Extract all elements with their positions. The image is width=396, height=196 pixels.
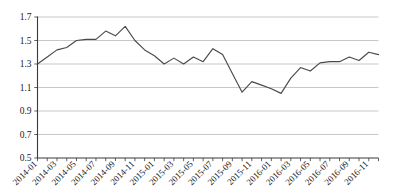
y-axis-tick-label: 1.3: [20, 59, 32, 69]
y-axis-tick-label: 0.9: [20, 106, 32, 116]
y-axis-tick-label: 0.7: [20, 130, 32, 140]
y-axis-tick-labels: 0.50.70.91.11.31.51.7: [20, 12, 38, 163]
chart-canvas: 0.50.70.91.11.31.51.7 2014-012014-032014…: [0, 0, 396, 196]
x-axis-tick-labels: 2014-012014-032014-052014-072014-092014-…: [11, 158, 371, 187]
gridlines-group: [38, 17, 379, 135]
data-line: [38, 26, 379, 93]
y-axis-tick-label: 1.1: [20, 83, 32, 93]
y-axis-tick-label: 1.5: [20, 36, 32, 46]
y-axis-tick-label: 1.7: [20, 12, 32, 22]
line-chart: 0.50.70.91.11.31.51.7 2014-012014-032014…: [0, 0, 396, 196]
data-series-line: [38, 26, 379, 93]
